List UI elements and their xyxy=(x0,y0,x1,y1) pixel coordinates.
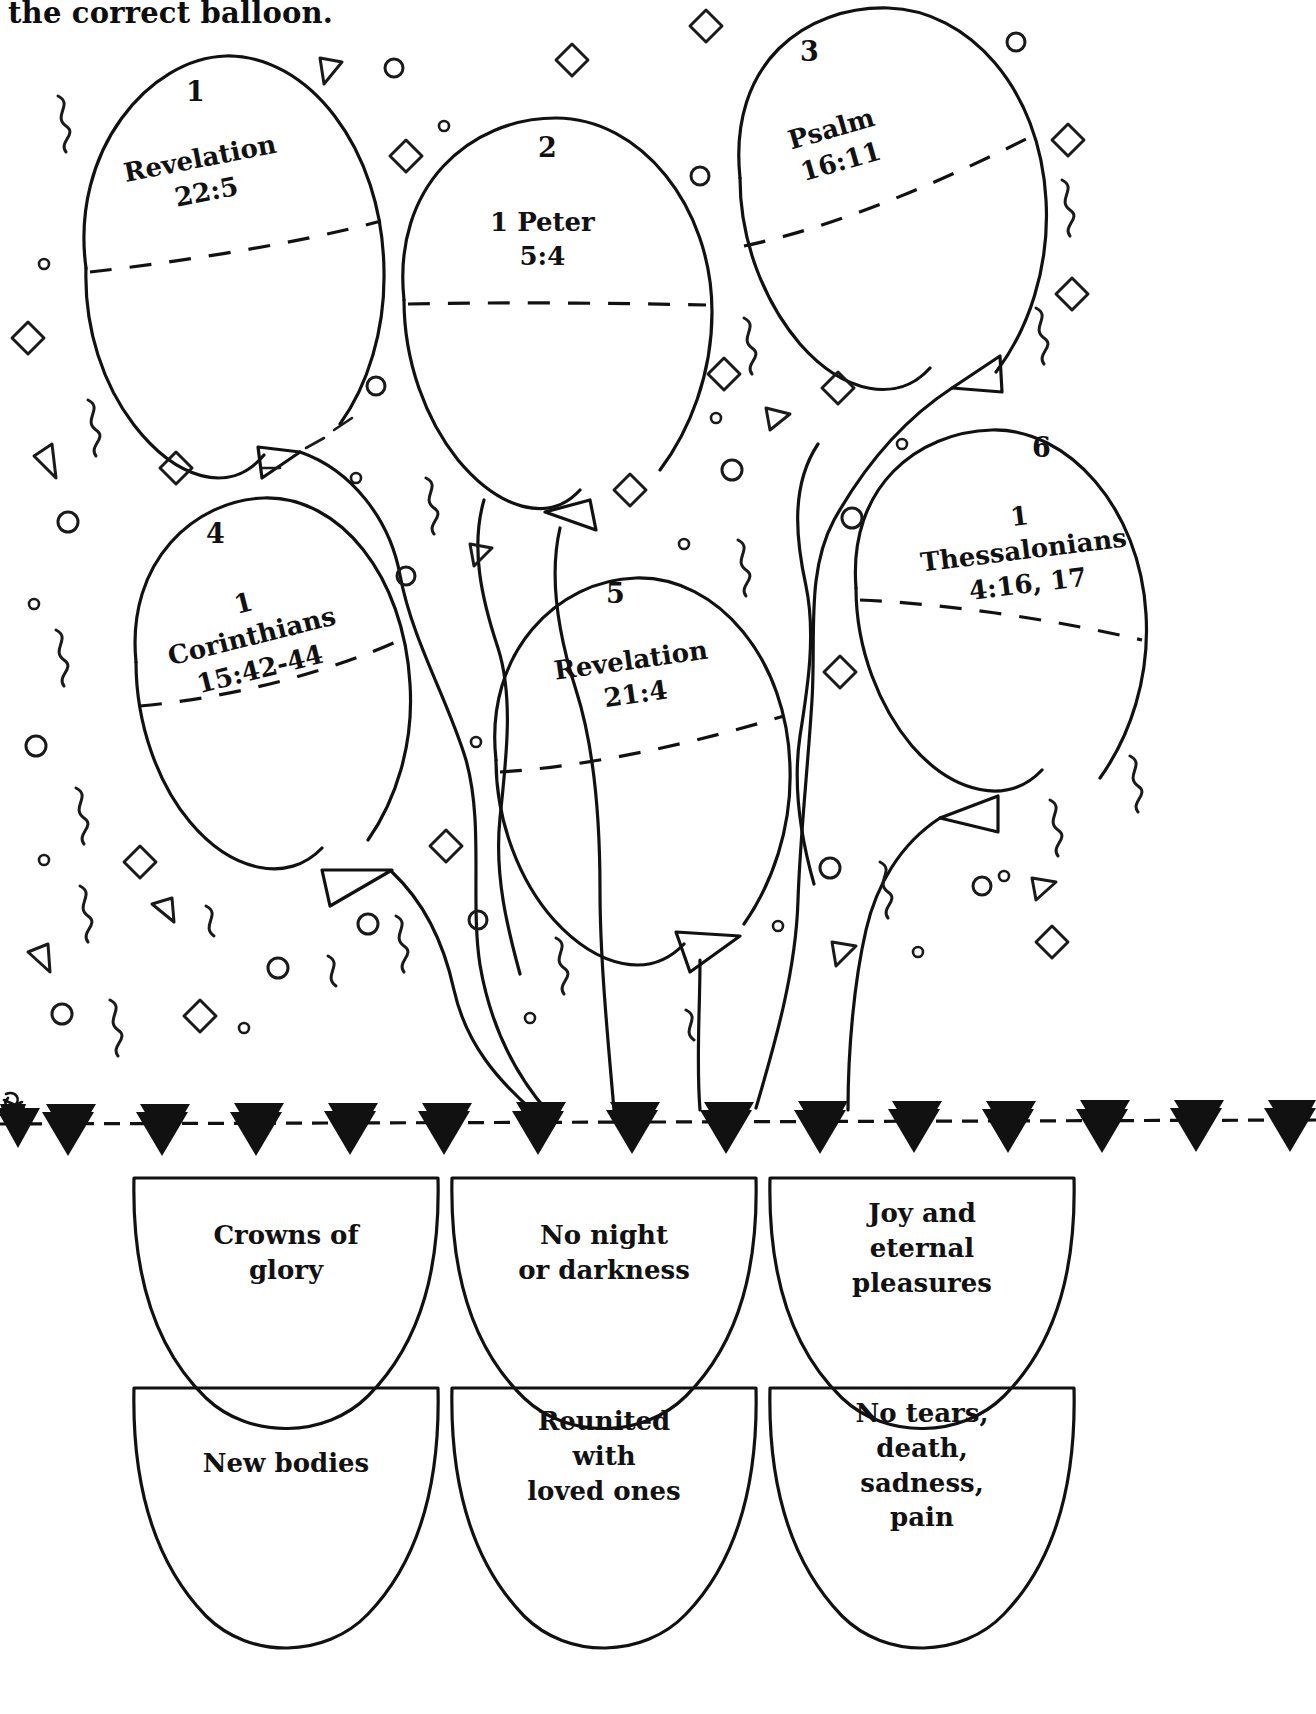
balloon-reference-2: 1 Peter 5:4 xyxy=(490,206,595,274)
answer-basket-6-line-3: sadness, xyxy=(820,1466,1024,1501)
balloon-5-string xyxy=(676,932,740,1110)
balloon-number-2: 2 xyxy=(538,132,557,163)
balloon-3-shape xyxy=(739,8,1047,390)
answer-basket-6-line-2: death, xyxy=(820,1431,1024,1466)
answer-basket-5-line-3: loved ones xyxy=(500,1474,708,1509)
confetti-dash-marks xyxy=(262,418,352,468)
answer-basket-2-line-1: No night xyxy=(500,1218,708,1253)
balloon-number-3: 3 xyxy=(800,36,819,67)
answer-basket-4-label: New bodies xyxy=(188,1446,384,1481)
answer-basket-1-line-2: glory xyxy=(194,1253,378,1288)
answer-basket-1-label: Crowns of glory xyxy=(194,1218,378,1288)
answer-basket-3-line-1: Joy and xyxy=(820,1196,1024,1231)
answer-basket-6-line-4: pain xyxy=(820,1500,1024,1535)
pennant-banner xyxy=(0,1093,1316,1156)
answer-basket-3-line-3: pleasures xyxy=(820,1266,1024,1301)
balloon-5-shape xyxy=(495,578,790,965)
balloon-6-shape xyxy=(855,430,1146,791)
answer-basket-2-line-2: or darkness xyxy=(500,1253,708,1288)
answer-basket-1-line-1: Crowns of xyxy=(194,1218,378,1253)
answer-basket-6-label: No tears, death, sadness, pain xyxy=(820,1396,1024,1535)
answer-basket-2-label: No night or darkness xyxy=(500,1218,708,1288)
balloon-reference-2-line-2: 5:4 xyxy=(490,240,595,274)
worksheet-page: the correct balloon. .ink { fill:none; s… xyxy=(0,0,1316,1714)
balloon-4-string xyxy=(322,870,532,1110)
balloon-1-shape xyxy=(84,56,384,478)
answer-basket-3-label: Joy and eternal pleasures xyxy=(820,1196,1024,1300)
balloon-number-1: 1 xyxy=(186,76,205,107)
answer-basket-6-line-1: No tears, xyxy=(820,1396,1024,1431)
banner-flags xyxy=(0,1100,1316,1156)
answer-basket-5-label: Reunited with loved ones xyxy=(500,1404,708,1508)
answer-basket-5-line-1: Reunited xyxy=(500,1404,708,1439)
answer-basket-3-line-2: eternal xyxy=(820,1231,1024,1266)
balloon-number-4: 4 xyxy=(206,518,225,549)
balloon-2-shape xyxy=(403,118,712,509)
balloon-number-5: 5 xyxy=(606,578,625,609)
answer-basket-5-line-2: with xyxy=(500,1439,708,1474)
answer-basket-4-line-1: New bodies xyxy=(188,1446,384,1481)
balloon-number-6: 6 xyxy=(1032,432,1051,463)
balloon-3-string xyxy=(756,356,1002,1108)
balloon-reference-2-line-1: 1 Peter xyxy=(490,206,595,240)
